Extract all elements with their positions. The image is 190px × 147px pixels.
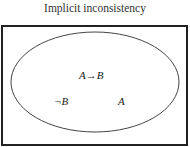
label-not-b: ¬B xyxy=(54,95,68,107)
universe-frame xyxy=(2,26,187,145)
belief-set-ellipse xyxy=(11,32,179,132)
label-implication: A→B xyxy=(79,69,103,81)
label-a: A xyxy=(118,95,125,107)
